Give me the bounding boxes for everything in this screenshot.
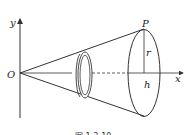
label-y: y — [9, 17, 16, 28]
label-origin: O — [7, 69, 15, 80]
label-x: x — [175, 73, 181, 84]
figure-caption: 图 1.3-10 — [75, 132, 111, 135]
label-p: P — [141, 18, 149, 29]
cone-diagram: y O P r h x 图 1.3-10 — [0, 0, 189, 135]
label-h: h — [144, 79, 150, 90]
label-r: r — [146, 47, 152, 58]
